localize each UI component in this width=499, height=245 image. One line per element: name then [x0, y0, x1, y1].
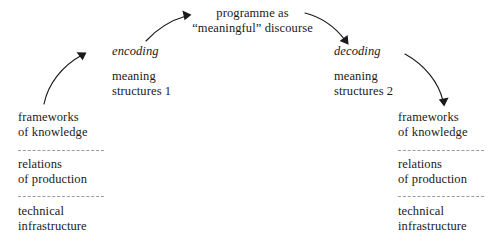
right-block-2-line1: relations	[398, 157, 442, 173]
left-block-1-line2: of knowledge	[18, 125, 88, 141]
left-block-3-line1: technical	[18, 204, 64, 220]
right-block-1-line1: frameworks	[398, 110, 459, 126]
right-block-1-line2: of knowledge	[398, 125, 468, 141]
meaning-structures-1-line2: structures 1	[112, 84, 171, 100]
left-block-2-line1: relations	[18, 157, 62, 173]
left-block-1-line1: frameworks	[18, 110, 79, 126]
arrow-frameworks-to-encoding	[44, 52, 87, 104]
left-block-3-line2: infrastructure	[18, 219, 87, 235]
encoding-label: encoding	[112, 44, 159, 60]
left-divider-2	[18, 196, 104, 197]
meaning-structures-2-line1: meaning	[334, 69, 378, 85]
right-block-2-line2: of production	[398, 172, 467, 188]
right-block-3-line2: infrastructure	[398, 219, 467, 235]
right-divider-1	[398, 150, 484, 151]
encoding-decoding-diagram: programme as “meaningful” discourse enco…	[0, 0, 499, 245]
meaning-structures-2-line2: structures 2	[334, 84, 393, 100]
programme-node-line1: programme as	[190, 6, 315, 22]
right-divider-2	[398, 196, 484, 197]
arrow-decoding-to-frameworks	[405, 54, 449, 107]
meaning-structures-1-line1: meaning	[112, 69, 156, 85]
programme-node-line2: “meaningful” discourse	[180, 21, 325, 37]
left-block-2-line2: of production	[18, 172, 87, 188]
right-block-3-line1: technical	[398, 204, 444, 220]
decoding-label: decoding	[334, 44, 381, 60]
left-divider-1	[18, 150, 104, 151]
